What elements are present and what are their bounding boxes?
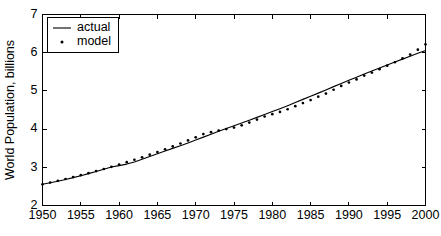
model-data-point [72,176,75,179]
model-data-point [194,136,197,139]
model-data-point [49,181,52,184]
model-data-point [164,148,167,151]
model-data-point [394,61,397,64]
series-actual-line [43,50,426,184]
y-tick-label: 7 [31,7,38,21]
model-data-point [179,142,182,145]
model-data-point [302,102,305,105]
y-axis-label: World Population, billions [3,40,17,180]
model-data-point [118,163,121,166]
y-axis-ticks [43,53,426,168]
x-axis-ticks [81,15,387,206]
model-data-point [95,170,98,173]
x-tick-label: 1990 [335,208,363,222]
chart-legend: actual model [48,18,119,53]
model-data-point [416,48,419,51]
model-data-point [294,105,297,108]
model-data-point [286,108,289,111]
model-data-point [401,57,404,60]
model-data-point [371,71,374,74]
model-data-point [348,81,351,84]
x-tick-label: 1985 [297,208,325,222]
population-chart-figure: 1950195519601965197019751980198519901995… [0,0,441,236]
model-data-point [256,118,259,121]
model-data-point [355,78,358,81]
series-model-points [41,43,427,186]
legend-marker-dot-icon [61,41,64,44]
model-data-point [156,151,159,154]
model-data-point [340,85,343,88]
model-data-point [409,53,412,56]
model-data-point [263,115,266,118]
model-data-point [233,126,236,129]
model-data-point [102,168,105,171]
chart-canvas: 1950195519601965197019751980198519901995… [0,0,441,236]
model-data-point [187,139,190,142]
model-data-point [240,124,243,127]
model-data-point [424,43,427,46]
model-data-point [279,111,282,114]
model-data-point [110,165,113,168]
model-data-point [141,156,144,159]
model-data-point [87,172,90,175]
model-data-point [309,99,312,102]
model-data-point [325,92,328,95]
legend-label-model: model [77,34,111,48]
y-tick-label: 2 [31,198,38,212]
model-data-point [363,74,366,77]
x-tick-label: 1975 [220,208,248,222]
x-tick-label: 2000 [412,208,440,222]
x-tick-label: 1970 [182,208,210,222]
x-tick-label: 1965 [143,208,171,222]
x-tick-label: 1960 [105,208,133,222]
y-tick-label: 4 [31,121,38,135]
y-tick-label: 6 [31,45,38,59]
model-data-point [79,174,82,177]
model-data-point [41,183,44,186]
model-data-point [64,178,67,181]
model-data-point [171,145,174,148]
x-tick-label: 1955 [67,208,95,222]
x-tick-label: 1980 [258,208,286,222]
x-tick-label: 1995 [373,208,401,222]
model-data-point [271,113,274,116]
model-data-point [248,121,251,124]
model-data-point [133,158,136,161]
x-axis-tick-labels: 1950195519601965197019751980198519901995… [29,208,440,222]
model-data-point [378,68,381,71]
y-tick-label: 5 [31,83,38,97]
model-data-point [148,153,151,156]
model-data-point [332,88,335,91]
y-tick-label: 3 [31,160,38,174]
model-data-point [202,133,205,136]
y-axis-tick-labels: 234567 [31,7,38,212]
model-data-point [125,161,128,164]
legend-label-actual: actual [77,20,110,34]
model-data-point [210,131,213,134]
model-data-point [317,95,320,98]
model-data-point [225,128,228,131]
model-data-point [217,129,220,132]
model-data-point [56,179,59,182]
model-data-point [386,64,389,67]
